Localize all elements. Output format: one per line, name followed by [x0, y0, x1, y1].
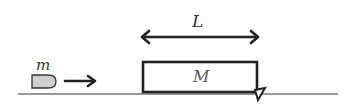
diagram-canvas	[0, 0, 349, 109]
block-mass-label: M	[193, 67, 209, 86]
length-label: L	[192, 11, 203, 31]
velocity-arrow	[65, 76, 95, 86]
length-arrow	[142, 31, 258, 43]
bullet-icon	[32, 75, 56, 88]
bullet-mass-label: m	[36, 56, 50, 74]
